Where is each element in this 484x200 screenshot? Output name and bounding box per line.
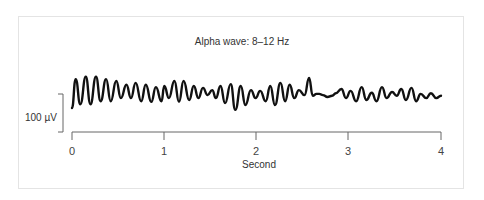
x-axis-ticks bbox=[72, 132, 441, 140]
x-tick-label-0: 0 bbox=[69, 146, 75, 157]
x-tick-label-4: 4 bbox=[438, 146, 444, 157]
x-tick-label-1: 1 bbox=[161, 146, 167, 157]
scale-bar bbox=[58, 94, 63, 132]
scale-bar-label: 100 µV bbox=[25, 113, 57, 123]
x-axis-label: Second bbox=[242, 160, 276, 170]
chart-canvas bbox=[0, 0, 484, 200]
x-tick-label-3: 3 bbox=[345, 146, 351, 157]
x-tick-label-2: 2 bbox=[253, 146, 259, 157]
eeg-waveform bbox=[72, 77, 441, 110]
